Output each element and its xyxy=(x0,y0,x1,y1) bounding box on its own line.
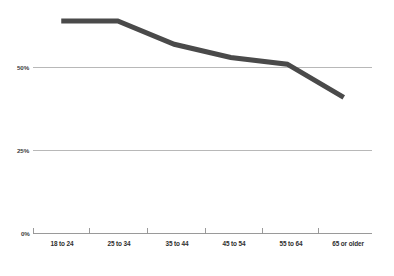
x-tick-label-18-to-24: 18 to 24 xyxy=(51,240,75,247)
y-tick-label-25: 25% xyxy=(17,147,30,154)
chart-canvas: 50% 25% 0% 18 to 24 25 to 34 35 to 44 45… xyxy=(0,0,394,276)
x-axis-labels: 18 to 24 25 to 34 35 to 44 45 to 54 55 t… xyxy=(51,240,365,247)
gridlines xyxy=(33,68,372,151)
y-axis-labels: 50% 25% 0% xyxy=(17,64,30,237)
data-series-line xyxy=(61,21,344,97)
x-axis-ticks xyxy=(34,228,319,234)
x-tick-label-55-to-64: 55 to 64 xyxy=(280,240,304,247)
y-tick-label-50: 50% xyxy=(17,64,30,71)
x-tick-label-65-or-older: 65 or older xyxy=(332,240,364,247)
x-tick-label-45-to-54: 45 to 54 xyxy=(223,240,247,247)
y-tick-label-0: 0% xyxy=(21,230,30,237)
line-chart: 50% 25% 0% 18 to 24 25 to 34 35 to 44 45… xyxy=(0,0,394,276)
x-tick-label-25-to-34: 25 to 34 xyxy=(108,240,132,247)
x-tick-label-35-to-44: 35 to 44 xyxy=(166,240,190,247)
